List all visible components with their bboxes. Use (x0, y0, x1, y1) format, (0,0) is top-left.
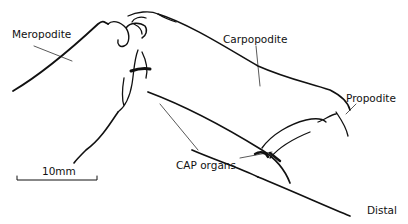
propodite-curves (262, 112, 348, 158)
inner-fold (118, 50, 147, 112)
label-distal: Distal (367, 205, 397, 216)
distal-edge (258, 177, 350, 216)
label-cap-organs: CAP organs (176, 160, 236, 171)
meropodite-lower (74, 112, 118, 163)
scale-bar-label: 10mm (42, 166, 76, 177)
mero-carpo-joint (108, 22, 146, 47)
leader-meropodite (34, 46, 72, 61)
carpopodite-top (158, 14, 350, 110)
label-carpopodite: Carpopodite (223, 34, 287, 45)
label-meropodite: Meropodite (12, 29, 71, 40)
label-propodite: Propodite (346, 93, 396, 104)
